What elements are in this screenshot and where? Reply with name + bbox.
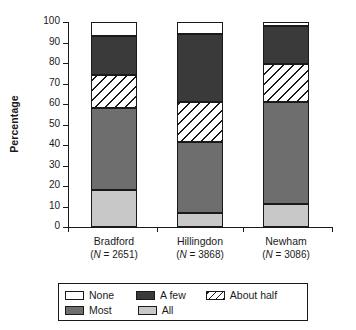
y-axis-tick: 80	[63, 63, 68, 64]
y-axis-tick: 60	[63, 104, 68, 105]
bar-hillingdon	[177, 22, 223, 227]
legend-label-all: All	[162, 305, 174, 316]
legend-label-abouthalf: About half	[230, 290, 277, 301]
legend-swatch-most	[65, 306, 84, 315]
category-name: Hillingdon	[177, 235, 223, 247]
bar-segment-abouthalf	[263, 64, 309, 102]
bar-segment-abouthalf	[91, 75, 137, 108]
x-axis-label-newham: Newham(N = 3086)	[231, 234, 341, 262]
bar-segment-most	[91, 108, 137, 190]
stacked-bar-chart: Percentage 1009080706050403020100 Bradfo…	[0, 0, 356, 330]
bar-segment-none	[263, 22, 309, 26]
y-axis-title: Percentage	[8, 79, 20, 169]
bar-segment-all	[91, 190, 137, 227]
y-axis-tick: 20	[63, 186, 68, 187]
y-axis-tick-label: 90	[36, 36, 60, 47]
y-axis-tick: 100	[63, 22, 68, 23]
legend-item-abouthalf[interactable]: About half	[206, 290, 277, 301]
y-axis-tick-label: 50	[36, 118, 60, 129]
x-axis-tick	[332, 227, 333, 232]
y-axis-tick-label: 70	[36, 77, 60, 88]
plot-area: 1009080706050403020100 Bradford(N = 2651…	[68, 22, 333, 227]
bar-segment-most	[263, 102, 309, 205]
category-name: Bradford	[94, 235, 134, 247]
bar-bradford	[91, 22, 137, 227]
category-name: Newham	[265, 235, 306, 247]
y-axis-tick-label: 80	[36, 56, 60, 67]
legend-label-most: Most	[89, 305, 112, 316]
bar-segment-afew	[263, 26, 309, 64]
y-axis-tick: 70	[63, 84, 68, 85]
x-axis-tick	[243, 227, 244, 232]
chart-legend: NoneA fewAbout half MostAll	[58, 283, 308, 321]
bar-segment-afew	[91, 36, 137, 75]
x-axis-tick	[68, 227, 69, 232]
legend-label-none: None	[89, 290, 114, 301]
y-axis-tick-label: 30	[36, 159, 60, 170]
y-axis-tick-label: 40	[36, 138, 60, 149]
bar-segment-none	[177, 22, 223, 34]
y-axis-tick-label: 10	[36, 200, 60, 211]
legend-row-2: MostAll	[65, 303, 301, 318]
bar-segment-most	[177, 142, 223, 213]
y-axis-tick-label: 20	[36, 179, 60, 190]
bar-segment-none	[91, 22, 137, 36]
y-axis-tick-label: 60	[36, 97, 60, 108]
bar-segment-all	[263, 204, 309, 227]
bar-segment-all	[177, 213, 223, 227]
y-axis-line	[68, 22, 69, 228]
y-axis-tick: 30	[63, 166, 68, 167]
legend-swatch-abouthalf	[206, 291, 225, 300]
legend-row-1: NoneA fewAbout half	[65, 288, 301, 303]
bar-segment-abouthalf	[177, 102, 223, 142]
x-axis-line	[68, 227, 333, 228]
legend-swatch-none	[65, 291, 84, 300]
x-axis-tick	[157, 227, 158, 232]
legend-item-none[interactable]: None	[65, 290, 114, 301]
bar-newham	[263, 22, 309, 227]
y-axis-tick-label: 100	[36, 15, 60, 26]
y-axis-tick: 10	[63, 207, 68, 208]
legend-label-afew: A few	[160, 290, 186, 301]
bar-segment-afew	[177, 34, 223, 102]
legend-item-afew[interactable]: A few	[136, 290, 186, 301]
legend-item-all[interactable]: All	[138, 305, 174, 316]
y-axis-tick: 50	[63, 125, 68, 126]
legend-item-most[interactable]: Most	[65, 305, 112, 316]
category-sample-size: (N = 3086)	[231, 248, 341, 262]
legend-swatch-afew	[136, 291, 155, 300]
y-axis-tick-label: 0	[36, 220, 60, 231]
legend-swatch-all	[138, 306, 157, 315]
y-axis-tick: 40	[63, 145, 68, 146]
y-axis-tick: 90	[63, 43, 68, 44]
